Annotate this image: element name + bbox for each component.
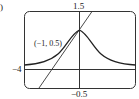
y-max-label: 1.5 [73, 2, 84, 11]
x-min-label: −4 [12, 65, 22, 74]
point-annotation: (−1, 0.5) [34, 39, 62, 48]
y-min-label: −0.5 [71, 90, 87, 99]
plot [0, 0, 139, 99]
tangent-line [39, 12, 92, 89]
